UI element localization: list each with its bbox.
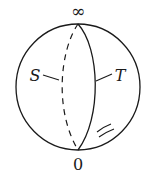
hatch-marks <box>97 124 114 137</box>
solid-meridian-t <box>78 24 95 150</box>
dashed-meridian-s <box>62 24 78 150</box>
label-t: T <box>115 66 127 85</box>
leader-line-s <box>43 75 59 80</box>
leader-line-t <box>96 74 112 81</box>
sphere-outline <box>16 24 140 150</box>
label-zero: 0 <box>73 155 83 174</box>
riemann-sphere-diagram: ∞ 0 S T <box>0 0 146 175</box>
label-s: S <box>30 66 41 85</box>
label-infinity: ∞ <box>71 1 85 21</box>
